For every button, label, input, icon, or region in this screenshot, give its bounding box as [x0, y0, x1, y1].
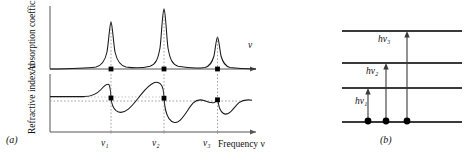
y-axis-label-absorption: Absorption coefficient α: [27, 2, 38, 72]
x-tick-label-nu3: ν₃: [203, 138, 211, 148]
panel-b-caption: (b): [380, 134, 392, 145]
x-axis-label-frequency: Frequency ν: [218, 139, 265, 149]
x-tick-label-nu2: ν₂: [152, 138, 160, 148]
transition-label-hv1: hν₁: [355, 96, 367, 106]
x-tick-label-nu1: ν₁: [101, 138, 109, 148]
electron-dot-3: [404, 118, 411, 125]
transition-label-hv2: hν₂: [366, 66, 378, 76]
panel-a-caption: (a): [6, 134, 18, 145]
electron-dot-2: [383, 118, 390, 125]
y-axis-label-refractive-index: Refractive index n: [27, 74, 38, 134]
refractive-index-curve: [50, 82, 252, 122]
bottom-axis-arrow: [250, 130, 256, 135]
crossing-dot-nu1: [109, 96, 114, 101]
electron-dot-1: [365, 118, 372, 125]
panel-b-energy-level-diagram: [290, 0, 475, 154]
transition-label-hv3: hν₃: [378, 34, 390, 44]
resonance-dot-nu2-top: [162, 67, 167, 72]
crossing-dot-nu3: [215, 97, 220, 102]
resonance-dot-nu3-top: [215, 67, 220, 72]
absorption-curve: [50, 9, 256, 69]
panel-a-plot: [0, 0, 290, 154]
top-axis-frequency-symbol: ν: [248, 40, 252, 50]
figure-container: Absorption coefficient α Refractive inde…: [0, 0, 475, 154]
resonance-dot-nu1-top: [109, 67, 114, 72]
crossing-dot-nu2: [162, 96, 167, 101]
